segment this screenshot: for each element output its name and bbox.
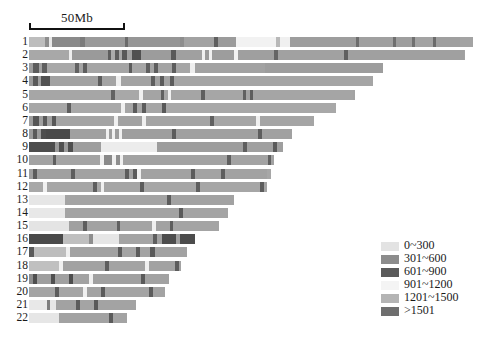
chromosome-bar[interactable] (29, 195, 234, 205)
chromosome-band (59, 313, 109, 323)
chromosome-band (75, 169, 125, 179)
chromosome-band (153, 287, 165, 297)
chromosome-band (146, 116, 210, 126)
chromosome-band (415, 37, 433, 47)
chromosome-row: 4 (0, 75, 487, 88)
scale-bar-tick-right (123, 23, 125, 30)
legend-swatch (381, 294, 399, 303)
chromosome-band (359, 37, 393, 47)
chromosome-band (56, 300, 76, 310)
chromosome-label: 1 (0, 36, 28, 47)
chromosome-band (145, 274, 169, 284)
chromosome-band (280, 37, 290, 47)
chromosome-band (65, 195, 167, 205)
chromosome-band (104, 155, 112, 165)
chromosome-band (238, 50, 274, 60)
chromosome-label: 12 (0, 181, 28, 192)
chromosome-ideogram-figure: 50Mb 12345678910111213141516171819202122… (0, 0, 487, 341)
chromosome-bar[interactable] (29, 261, 181, 271)
chromosome-band (277, 142, 283, 152)
chromosome-band (122, 129, 172, 139)
chromosome-bar[interactable] (29, 116, 314, 126)
chromosome-band (101, 142, 157, 152)
chromosome-row: 10 (0, 154, 487, 167)
chromosome-bar[interactable] (29, 274, 169, 284)
chromosome-bar[interactable] (29, 155, 274, 165)
chromosome-band (171, 90, 201, 100)
chromosome-band (29, 142, 55, 152)
chromosome-bar[interactable] (29, 90, 355, 100)
chromosome-band (200, 182, 260, 192)
chromosome-band (121, 76, 151, 86)
chromosome-band (195, 169, 221, 179)
chromosome-bar[interactable] (29, 234, 195, 244)
chromosome-band (128, 37, 180, 47)
chromosome-label: 20 (0, 286, 28, 297)
chromosome-band (47, 63, 75, 73)
chromosome-band (59, 287, 83, 297)
chromosome-band (93, 274, 141, 284)
chromosome-band (156, 221, 170, 231)
chromosome-bar[interactable] (29, 76, 373, 86)
chromosome-band (225, 169, 267, 179)
chromosome-band (231, 155, 268, 165)
chromosome-bar[interactable] (29, 247, 187, 257)
chromosome-band (29, 208, 65, 218)
chromosome-bar[interactable] (29, 221, 219, 231)
chromosome-band (56, 155, 100, 165)
chromosome-label: 7 (0, 115, 28, 126)
chromosome-band (29, 90, 111, 100)
chromosome-band (149, 261, 175, 271)
chromosome-bar[interactable] (29, 208, 228, 218)
chromosome-bar[interactable] (29, 50, 465, 60)
chromosome-band (70, 247, 118, 257)
chromosome-band (157, 142, 243, 152)
chromosome-bar[interactable] (29, 103, 336, 113)
chromosome-row: 13 (0, 194, 487, 207)
chromosome-band (271, 155, 274, 165)
chromosome-band (73, 142, 101, 152)
chromosome-bar[interactable] (29, 129, 292, 139)
chromosome-band (85, 37, 125, 47)
chromosome-band (87, 287, 101, 297)
chromosome-band (278, 50, 344, 60)
chromosome-bar[interactable] (29, 313, 127, 323)
chromosome-band (396, 37, 412, 47)
legend-item[interactable]: >1501 (381, 305, 485, 318)
chromosome-band (143, 90, 161, 100)
chromosome-band (123, 155, 227, 165)
chromosome-row: 6 (0, 102, 487, 115)
chromosome-band (29, 234, 63, 244)
chromosome-band (29, 103, 67, 113)
chromosome-band (141, 169, 191, 179)
chromosome-band (34, 247, 66, 257)
chromosome-bar[interactable] (29, 287, 165, 297)
chromosome-label: 22 (0, 312, 28, 323)
chromosome-bar[interactable] (29, 300, 136, 310)
chromosome-band (63, 234, 89, 244)
legend-swatch (381, 307, 399, 316)
chromosome-band (184, 37, 214, 47)
chromosome-band (166, 103, 336, 113)
chromosome-band (87, 221, 117, 231)
scale-bar: 50Mb (29, 14, 125, 30)
chromosome-band (98, 300, 136, 310)
chromosome-bar[interactable] (29, 182, 267, 192)
chromosome-band (119, 234, 153, 244)
chromosome-band (146, 103, 162, 113)
legend-label: >1501 (404, 304, 435, 317)
chromosome-band (29, 155, 53, 165)
chromosome-band (69, 221, 83, 231)
chromosome-bar[interactable] (29, 169, 271, 179)
chromosome-band (179, 261, 181, 271)
chromosome-band (41, 76, 50, 86)
chromosome-band (29, 37, 45, 47)
chromosome-row: 5 (0, 89, 487, 102)
chromosome-bar[interactable] (29, 142, 283, 152)
chromosome-label: 9 (0, 141, 28, 152)
chromosome-bar[interactable] (29, 37, 473, 47)
chromosome-band (29, 221, 69, 231)
chromosome-band (71, 103, 121, 113)
chromosome-band (162, 234, 176, 244)
chromosome-bar[interactable] (29, 63, 383, 73)
